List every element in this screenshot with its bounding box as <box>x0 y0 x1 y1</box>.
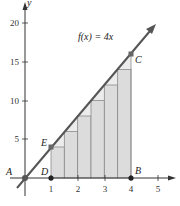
y-tick-5: 5 <box>15 134 20 144</box>
x-tick-4: 4 <box>129 184 134 194</box>
x-axis-arrow-icon <box>168 176 176 181</box>
x-tick-2: 2 <box>76 184 81 194</box>
y-tick-20: 20 <box>10 18 20 28</box>
x-tick-3: 3 <box>103 184 108 194</box>
label-e: E <box>40 137 47 148</box>
riemann-sum-diagram: y 1 2 3 4 5 5 10 15 20 f(x) = 4x A D B E… <box>0 0 180 206</box>
y-tick-10: 10 <box>10 96 20 106</box>
function-label: f(x) = 4x <box>78 31 114 43</box>
label-d: D <box>40 166 49 177</box>
label-c: C <box>135 54 142 65</box>
riemann-rectangles <box>51 70 131 179</box>
point-b <box>128 175 133 180</box>
point-a <box>22 175 28 181</box>
point-c <box>129 52 134 57</box>
label-b: B <box>135 165 141 176</box>
y-tick-15: 15 <box>10 57 20 67</box>
point-e <box>49 145 54 150</box>
label-a: A <box>5 166 13 177</box>
y-axis-label: y <box>26 0 32 8</box>
point-d <box>48 175 53 180</box>
x-tick-5: 5 <box>156 184 161 194</box>
x-tick-1: 1 <box>49 184 54 194</box>
